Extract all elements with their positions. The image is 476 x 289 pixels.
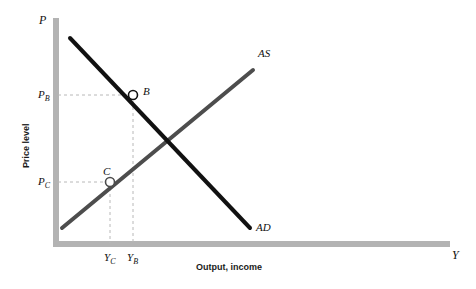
x-axis-label: Output, income <box>196 263 262 272</box>
price-tick-b: PB <box>38 89 50 103</box>
point-c-label: C <box>103 166 110 177</box>
x-axis-symbol: Y <box>452 249 459 261</box>
price-tick-b-subscript: B <box>45 94 50 103</box>
output-tick-c-subscript: C <box>110 257 115 266</box>
aggregate-supply-curve <box>62 70 253 228</box>
as-curve-label: AS <box>258 48 270 59</box>
point-c-marker <box>106 178 115 187</box>
y-axis-label: Price level <box>22 123 31 168</box>
axes-group <box>53 18 450 245</box>
output-tick-c: YC <box>104 252 115 266</box>
point-b-label: B <box>143 86 150 97</box>
ad-as-diagram: P Y Price level Output, income AS AD B C… <box>0 0 476 289</box>
output-tick-b-subscript: B <box>133 257 138 266</box>
point-b-marker <box>129 91 138 100</box>
ad-curve-label: AD <box>256 222 271 233</box>
price-tick-c: PC <box>38 176 50 190</box>
y-axis-symbol: P <box>39 14 46 26</box>
price-tick-c-subscript: C <box>45 181 50 190</box>
diagram-canvas <box>0 0 476 289</box>
price-tick-b-symbol: P <box>38 88 45 100</box>
output-tick-b: YB <box>127 252 138 266</box>
price-tick-c-symbol: P <box>38 175 45 187</box>
